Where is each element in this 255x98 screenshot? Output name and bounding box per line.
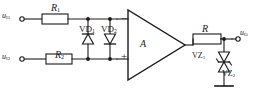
label-inverting-terminal: − [121,13,127,24]
terminal-input-1-dot [20,17,24,21]
junction-vd1-top [86,17,90,21]
opamp-triangle [128,10,185,80]
label-opamp: A [140,39,146,49]
junction-vd2-bottom [108,57,112,61]
diode-vd2-triangle [105,34,116,44]
label-noninverting-terminal: + [121,51,127,62]
junction-vd2-top [108,17,112,21]
resistor-r1-body [42,14,68,24]
label-zener-vz2: VZ2 [222,70,235,79]
label-output: uO [240,29,248,38]
label-resistor-r2: R2 [55,50,64,61]
terminal-input-2-dot [20,57,24,61]
resistor-feedback-body [193,34,221,44]
label-resistor-r1: R1 [51,3,60,14]
zener-vz1-triangle [219,52,230,62]
zener-vz1-bar-tick-right [230,62,232,65]
diode-vd1-triangle [83,34,94,44]
zener-vz1-bar-tick-left [217,59,219,62]
label-input-2: uI2 [2,53,10,62]
junction-vd1-bottom [86,57,90,61]
schematic-canvas [0,0,255,98]
label-resistor-feedback: R [202,24,208,34]
label-input-1: uI1 [2,12,10,21]
circuit-diagram: uI1 uI2 uO R1 R2 R VD1 VD2 VZ1 VZ2 A − + [0,0,255,98]
label-diode-vd2: VD2 [101,25,117,35]
label-zener-vz1: VZ1 [192,52,205,61]
label-diode-vd1: VD1 [79,25,95,35]
